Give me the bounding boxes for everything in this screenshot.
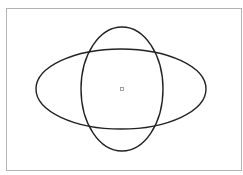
diagram-canvas <box>0 0 243 175</box>
